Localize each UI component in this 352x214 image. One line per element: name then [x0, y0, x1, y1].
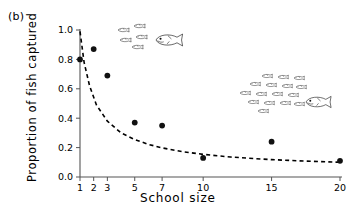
- data-point: [104, 73, 110, 79]
- small-fish-icon: [136, 35, 147, 39]
- fit-curve: [80, 31, 340, 162]
- small-fish-icon: [280, 101, 290, 105]
- x-tick-label: 2: [91, 182, 97, 193]
- fish-illustrations: [118, 24, 331, 113]
- x-tick-label: 5: [132, 182, 138, 193]
- plot-area: 0.00.20.40.60.81.012357101520: [0, 0, 352, 214]
- small-fish-icon: [248, 100, 258, 104]
- y-tick-label: 1.0: [58, 24, 73, 35]
- x-tick-label: 10: [197, 182, 209, 193]
- x-tick-label: 20: [334, 182, 346, 193]
- data-point: [77, 57, 83, 63]
- small-fish-icon: [294, 76, 304, 80]
- y-tick-label: 0.0: [58, 171, 73, 182]
- small-fish-icon: [250, 82, 260, 86]
- small-fish-icon: [264, 101, 274, 105]
- small-fish-icon: [120, 38, 131, 42]
- y-tick-label: 0.8: [58, 54, 73, 65]
- small-school-illustration: [118, 24, 183, 49]
- small-fish-icon: [278, 75, 288, 79]
- data-point: [200, 155, 206, 161]
- predator-fish-icon: [306, 96, 331, 107]
- predator-fish-icon: [156, 34, 183, 46]
- small-fish-icon: [272, 92, 282, 96]
- data-point: [269, 139, 275, 145]
- small-fish-icon: [262, 74, 272, 78]
- data-point: [337, 158, 343, 164]
- small-fish-icon: [288, 93, 298, 97]
- small-fish-icon: [266, 83, 276, 87]
- x-tick-label: 7: [159, 182, 165, 193]
- data-point: [132, 120, 138, 126]
- small-fish-icon: [132, 45, 143, 49]
- data-point: [91, 46, 97, 52]
- small-fish-icon: [240, 91, 250, 95]
- small-fish-icon: [256, 92, 266, 96]
- data-point: [159, 123, 165, 129]
- x-tick-label: 1: [77, 182, 83, 193]
- large-school-illustration: [240, 74, 331, 113]
- small-fish-icon: [118, 28, 129, 32]
- x-tick-label: 15: [266, 182, 278, 193]
- y-tick-label: 0.4: [58, 113, 73, 124]
- small-fish-icon: [282, 84, 292, 88]
- tick-labels: 0.00.20.40.60.81.012357101520: [58, 24, 346, 193]
- x-tick-label: 3: [104, 182, 110, 193]
- small-fish-icon: [296, 85, 306, 89]
- figure-panel-b: (b) Proportion of fish captured School s…: [0, 0, 352, 214]
- small-fish-icon: [134, 24, 145, 28]
- y-tick-label: 0.6: [58, 83, 73, 94]
- small-fish-icon: [294, 102, 304, 106]
- y-tick-label: 0.2: [58, 142, 73, 153]
- small-fish-icon: [258, 109, 268, 113]
